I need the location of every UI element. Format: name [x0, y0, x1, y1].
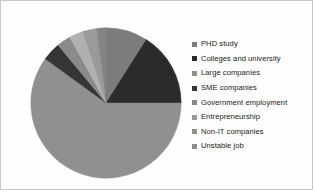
legend-swatch-icon [192, 115, 197, 120]
legend-item[interactable]: Large companies [192, 66, 314, 81]
legend-swatch-icon [192, 71, 197, 76]
pie-chart-svg [30, 27, 182, 179]
legend-item[interactable]: Unstable job [192, 139, 314, 154]
legend-item-label: Large companies [201, 68, 260, 78]
legend-item[interactable]: Non-IT companies [192, 125, 314, 140]
legend-item[interactable]: PHD study [192, 37, 314, 52]
legend-item-label: Non-IT companies [201, 127, 264, 137]
legend-swatch-icon [192, 42, 197, 47]
legend-item[interactable]: Entrepreneurship [192, 110, 314, 125]
legend-swatch-icon [192, 86, 197, 91]
legend-item-label: Unstable job [201, 141, 244, 151]
pie-chart [30, 27, 182, 179]
pie-slice-group [31, 28, 181, 178]
legend-item[interactable]: Colleges and university [192, 52, 314, 67]
legend-swatch-icon [192, 100, 197, 105]
legend-item-label: SME companies [201, 83, 257, 93]
legend-swatch-icon [192, 56, 197, 61]
legend-item-label: Colleges and university [201, 54, 281, 64]
chart-figure: PHD studyColleges and universityLarge co… [0, 0, 313, 190]
chart-legend: PHD studyColleges and universityLarge co… [192, 37, 314, 154]
legend-item-label: Government employment [201, 98, 287, 108]
legend-item[interactable]: SME companies [192, 81, 314, 96]
legend-swatch-icon [192, 144, 197, 149]
legend-item-label: PHD study [201, 39, 238, 49]
legend-item[interactable]: Government employment [192, 95, 314, 110]
legend-swatch-icon [192, 129, 197, 134]
legend-item-label: Entrepreneurship [201, 112, 260, 122]
